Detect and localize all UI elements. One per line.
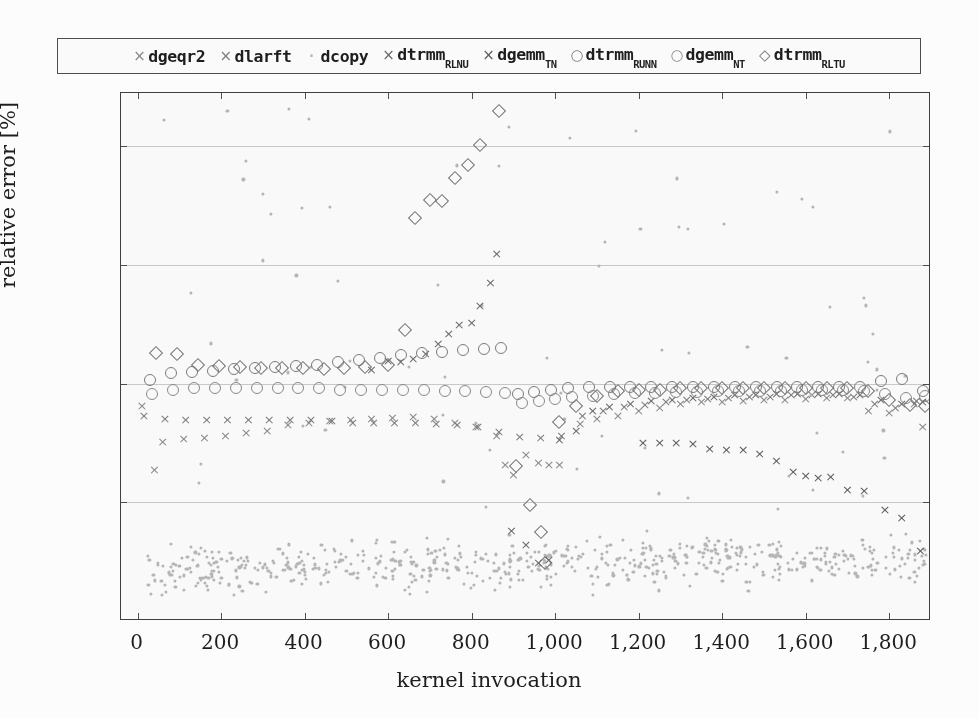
legend-item-dcopy: ·dcopy xyxy=(299,45,376,67)
data-point xyxy=(903,398,917,412)
legend-item-dgemm-TN: ×dgemmTN xyxy=(475,45,563,66)
x-axis-label: kernel invocation xyxy=(0,668,978,692)
data-point xyxy=(715,381,729,395)
legend-label: dlarft xyxy=(234,47,291,66)
legend-label: dcopy xyxy=(321,47,369,66)
legend-item-dlarft: ×dlarft xyxy=(212,47,298,66)
data-point xyxy=(757,381,771,395)
data-point xyxy=(653,383,667,397)
plot-area: 20100−10−20×××××××××××××××××××××××××××××… xyxy=(120,92,930,620)
data-point xyxy=(460,158,474,172)
data-point xyxy=(381,358,395,372)
cross-marker-icon: × xyxy=(133,49,145,64)
x-tick-label: 800 xyxy=(426,630,516,654)
legend-item-dgemm-NT: ○dgemmNT xyxy=(664,45,752,66)
data-point xyxy=(170,347,184,361)
data-point xyxy=(523,498,537,512)
data-point xyxy=(736,381,750,395)
legend-subscript: RLTU xyxy=(822,58,845,70)
x-tick-label: 600 xyxy=(342,630,432,654)
data-point xyxy=(149,346,163,360)
legend-subscript: RLNU xyxy=(445,58,468,70)
legend-label: dgemmTN xyxy=(497,45,556,66)
data-point xyxy=(918,399,930,413)
data-point xyxy=(435,194,449,208)
data-point xyxy=(254,361,268,375)
legend-subscript: NT xyxy=(733,58,745,70)
y-axis-label: relative error [%] xyxy=(0,102,20,288)
data-point xyxy=(448,171,462,185)
legend-subscript: TN xyxy=(545,58,557,70)
data-point xyxy=(590,388,604,402)
data-point xyxy=(569,399,583,413)
data-point xyxy=(191,358,205,372)
data-point xyxy=(398,323,412,337)
data-point xyxy=(861,384,875,398)
data-point xyxy=(337,361,351,375)
legend-label: dtrmmRLNU xyxy=(397,45,468,66)
data-point xyxy=(212,359,226,373)
data-point xyxy=(820,381,834,395)
legend-label: dgemmNT xyxy=(686,45,745,66)
legend-box: ×dgeqr2×dlarft·dcopy×dtrmmRLNU×dgemmTN○d… xyxy=(57,38,921,74)
data-point xyxy=(534,525,548,539)
data-point xyxy=(799,381,813,395)
legend-label: dtrmmRUNN xyxy=(586,45,657,66)
data-point xyxy=(233,360,247,374)
cross-marker-icon: × xyxy=(219,49,231,64)
data-point xyxy=(275,361,289,375)
dot-marker-icon: · xyxy=(306,45,318,67)
legend-label: dtrmmRLTU xyxy=(774,45,845,66)
data-point xyxy=(840,381,854,395)
legend-item-dtrmm-RLTU: ◇dtrmmRLTU xyxy=(752,45,852,66)
data-point xyxy=(296,361,310,375)
x-tick-label: 400 xyxy=(259,630,349,654)
x-tick-label: 1,800 xyxy=(843,630,933,654)
data-point xyxy=(552,415,566,429)
legend-subscript: RUNN xyxy=(633,58,656,70)
cross-marker-icon: × xyxy=(482,48,494,63)
legend-item-dtrmm-RUNN: ○dtrmmRUNN xyxy=(564,45,664,66)
legend-item-dgeqr2: ×dgeqr2 xyxy=(126,47,212,66)
data-point xyxy=(492,104,506,118)
data-point xyxy=(473,138,487,152)
data-point xyxy=(316,362,330,376)
cross-marker-icon: × xyxy=(382,48,394,63)
data-point xyxy=(632,383,646,397)
legend-item-dtrmm-RLNU: ×dtrmmRLNU xyxy=(375,45,475,66)
circle-marker-icon: ○ xyxy=(671,48,683,63)
data-point xyxy=(882,393,896,407)
series-dtrmm_RLTU xyxy=(121,93,929,619)
data-point xyxy=(673,381,687,395)
x-tick-label: 1,000 xyxy=(509,630,599,654)
data-point xyxy=(611,384,625,398)
data-point xyxy=(408,211,422,225)
x-tick-label: 1,400 xyxy=(676,630,766,654)
data-point xyxy=(538,556,552,570)
data-point xyxy=(694,381,708,395)
diamond-marker-icon: ◇ xyxy=(759,48,771,63)
data-point xyxy=(508,458,522,472)
data-point xyxy=(423,193,437,207)
x-tick-label: 200 xyxy=(175,630,265,654)
data-point xyxy=(778,381,792,395)
x-tick-label: 0 xyxy=(92,630,182,654)
circle-marker-icon: ○ xyxy=(571,48,583,63)
x-tick-label: 1,600 xyxy=(760,630,850,654)
legend-label: dgeqr2 xyxy=(148,47,205,66)
data-point xyxy=(358,360,372,374)
x-tick-label: 1,200 xyxy=(593,630,683,654)
